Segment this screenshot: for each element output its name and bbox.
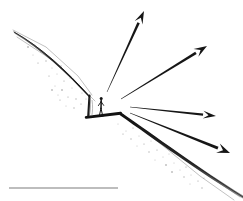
stipple-dot <box>72 88 73 89</box>
stipple-dot <box>79 84 80 85</box>
stipple-dot <box>38 63 39 64</box>
stipple-dot <box>51 89 53 91</box>
stipple-dot <box>73 107 75 109</box>
stipple-dot <box>144 144 145 145</box>
stipple-dot <box>174 163 175 164</box>
stipple-dot <box>118 124 119 125</box>
stipple-dot <box>75 98 77 100</box>
stipple-dot <box>201 187 203 189</box>
scarp-face <box>88 96 89 117</box>
stipple-dot <box>191 175 192 176</box>
stipple-dot <box>190 184 191 185</box>
stipple-dot <box>155 160 156 161</box>
stipple-dot <box>130 138 132 140</box>
stipple-dot <box>68 97 69 98</box>
stipple-dot <box>186 167 187 168</box>
stipple-dot <box>55 86 56 87</box>
stipple-dot <box>148 151 150 153</box>
stipple-dot <box>198 181 199 182</box>
stipple-dot <box>58 95 59 96</box>
stipple-dot <box>49 76 50 77</box>
stipple-dot <box>45 60 47 62</box>
stipple-dot <box>180 170 181 171</box>
stipple-dot <box>183 176 185 178</box>
stipple-dot <box>82 93 83 94</box>
stipple-dot <box>137 146 138 147</box>
stipple-dot <box>204 178 205 179</box>
stipple-dot <box>171 171 173 173</box>
stipple-dot <box>33 55 34 56</box>
canvas-background <box>0 0 243 201</box>
stipple-dot <box>165 164 167 166</box>
stipple-dot <box>81 104 82 105</box>
stipple-dot <box>86 99 87 100</box>
stipple-dot <box>123 134 124 135</box>
stipple-dot <box>52 68 53 69</box>
stipple-dot <box>133 128 134 129</box>
stipple-dot <box>60 65 62 67</box>
stipple-dot <box>157 150 158 151</box>
illustration-canvas: Sketch of an observer standing on a terr… <box>0 0 243 201</box>
stipple-dot <box>60 100 61 101</box>
stipple-dot <box>169 154 170 155</box>
stipple-dot <box>64 81 65 82</box>
stipple-dot <box>151 141 152 142</box>
stipple-dot <box>41 52 42 53</box>
stipple-dot <box>57 74 58 75</box>
stipple-dot <box>61 89 63 91</box>
stipple-dot <box>66 106 67 107</box>
stipple-dot <box>139 136 140 137</box>
viewshed-sketch: Sketch of an observer standing on a terr… <box>0 0 243 201</box>
stipple-dot <box>163 157 164 158</box>
stipple-dot <box>70 78 71 79</box>
stipple-dot <box>126 131 127 132</box>
stipple-dot <box>27 46 29 48</box>
